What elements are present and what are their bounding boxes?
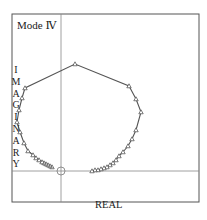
y-axis-label: IMAGINARY xyxy=(10,64,22,170)
triangle-marker-icon xyxy=(134,97,138,101)
triangle-marker-icon xyxy=(22,141,26,145)
y-axis-letter: A xyxy=(10,88,22,100)
locus-line xyxy=(17,64,141,171)
y-axis-letter: R xyxy=(10,147,22,159)
triangle-marker-icon xyxy=(73,62,77,66)
locus-series xyxy=(15,62,143,173)
chart-title: Mode Ⅳ xyxy=(17,19,56,32)
triangle-marker-icon xyxy=(134,128,138,132)
x-axis-label: REAL xyxy=(95,199,122,210)
triangle-marker-icon xyxy=(130,137,134,141)
plot-area xyxy=(0,0,207,220)
y-axis-letter: M xyxy=(10,76,22,88)
y-axis-letter: Y xyxy=(10,158,22,170)
y-axis-letter: I xyxy=(10,111,22,123)
y-axis-letter: N xyxy=(10,123,22,135)
y-axis-letter: I xyxy=(10,64,22,76)
plot-frame xyxy=(12,14,199,202)
triangle-marker-icon xyxy=(139,110,143,114)
y-axis-letter: G xyxy=(10,99,22,111)
triangle-marker-icon xyxy=(26,149,30,153)
y-axis-letter: A xyxy=(10,135,22,147)
